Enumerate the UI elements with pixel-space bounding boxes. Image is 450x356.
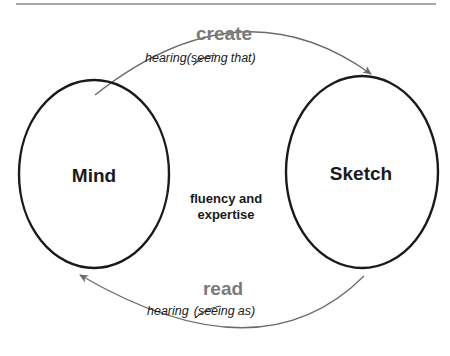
read-subtitle-struck: seeing [198,304,235,318]
create-title: create [196,23,252,44]
mind-label: Mind [72,165,116,186]
create-subtitle: hearing(seeingthat) [145,51,256,65]
center-label-line2: expertise [197,207,254,222]
read-subtitle-suffix: as) [238,304,255,318]
center-label-line1: fluency and [190,191,262,206]
read-subtitle: hearing(seeingas) [147,304,255,318]
read-subtitle-prefix: hearing [147,304,189,318]
diagram-canvas: Mind Sketch fluency and expertise create… [0,0,450,356]
create-subtitle-suffix: that) [231,51,256,65]
sketch-label: Sketch [330,163,392,184]
read-title: read [203,278,243,299]
create-subtitle-prefix: hearing [145,51,187,65]
